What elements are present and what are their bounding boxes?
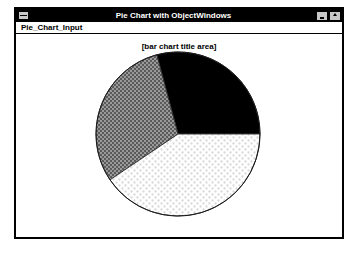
system-menu-icon[interactable] (16, 9, 31, 22)
minimize-icon[interactable] (316, 11, 328, 21)
screen: Pie Chart with ObjectWindows Pie_Chart_I… (0, 0, 355, 254)
title-bar[interactable]: Pie Chart with ObjectWindows (16, 9, 342, 22)
maximize-icon[interactable] (329, 11, 341, 21)
client-area: [bar chart title area] (16, 34, 342, 237)
pie-chart-svg (16, 34, 342, 237)
window-title: Pie Chart with ObjectWindows (31, 9, 316, 22)
application-window: Pie Chart with ObjectWindows Pie_Chart_I… (14, 7, 344, 239)
window-controls (316, 11, 342, 21)
pie-chart (16, 34, 342, 237)
system-menu-glyph (18, 11, 29, 20)
menu-bar: Pie_Chart_Input (16, 22, 342, 34)
menu-item-pie-chart-input[interactable]: Pie_Chart_Input (19, 22, 84, 33)
